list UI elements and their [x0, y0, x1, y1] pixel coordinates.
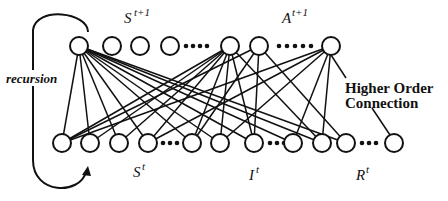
higher-order-edge — [372, 108, 390, 135]
edge-T1-B9 — [79, 46, 322, 143]
label-s-t-base: S — [133, 164, 141, 180]
edge-T7-B9 — [322, 46, 331, 143]
ellipsis-dot — [293, 44, 298, 49]
node-b9 — [313, 134, 331, 152]
ellipsis-dot — [275, 141, 280, 146]
ellipsis-dot — [191, 44, 196, 49]
node-t5 — [221, 37, 239, 55]
edge-T5-B7 — [230, 46, 254, 143]
network-diagram: recursion S t+1 A t+1 S t I t R t Higher… — [0, 0, 448, 201]
ellipsis-dot — [175, 141, 180, 146]
label-s-t1-base: S — [124, 10, 132, 26]
node-t1 — [70, 37, 88, 55]
ellipsis-dot — [198, 44, 203, 49]
node-b1 — [53, 134, 71, 152]
node-b7 — [245, 134, 263, 152]
node-b6 — [211, 134, 229, 152]
connection-edges — [62, 46, 346, 143]
label-a-t1-base: A — [281, 10, 292, 26]
node-b8 — [284, 134, 302, 152]
label-r-t-base: R — [355, 167, 365, 183]
label-s-t-sup: t — [142, 160, 146, 172]
label-i-t-base: I — [248, 167, 255, 183]
higher-order-edge — [331, 55, 346, 78]
ellipsis-dot — [360, 141, 365, 146]
label-i-t-sup: t — [256, 163, 260, 175]
arrowhead-icon — [82, 166, 91, 176]
node-b2 — [81, 134, 99, 152]
edge-T7-B8 — [293, 46, 331, 143]
ellipsis-dot — [301, 44, 306, 49]
edge-T7-B1 — [62, 46, 331, 143]
ellipsis-dot — [277, 44, 282, 49]
edge-T1-B1 — [62, 46, 79, 143]
ellipsis-dot — [285, 44, 290, 49]
edge-T5-B1 — [62, 46, 230, 143]
ellipsis-dot — [367, 141, 372, 146]
ellipsis-dot — [161, 141, 166, 146]
edge-T7-B6 — [220, 46, 331, 143]
node-t2 — [103, 37, 121, 55]
ellipsis-dot — [205, 44, 210, 49]
node-t3 — [131, 37, 149, 55]
node-b11 — [385, 134, 403, 152]
ellipsis-dot — [374, 141, 379, 146]
node-b4 — [139, 134, 157, 152]
ellipsis-dot — [309, 44, 314, 49]
label-a-t1-sup: t+1 — [292, 6, 308, 18]
node-t4 — [161, 37, 179, 55]
node-b10 — [337, 134, 355, 152]
node-b3 — [110, 134, 128, 152]
ellipsis-dot — [168, 141, 173, 146]
higher-order-label-line1: Higher Order — [345, 80, 434, 96]
node-b5 — [183, 134, 201, 152]
label-s-t1-sup: t+1 — [134, 6, 150, 18]
higher-order-label-line2: Connection — [345, 95, 419, 111]
node-t7 — [322, 37, 340, 55]
edge-T6-B7 — [254, 46, 259, 143]
recursion-label: recursion — [6, 71, 57, 86]
label-r-t-sup: t — [366, 163, 370, 175]
ellipsis-dot — [268, 141, 273, 146]
node-t6 — [250, 37, 268, 55]
ellipsis-dot — [184, 44, 189, 49]
